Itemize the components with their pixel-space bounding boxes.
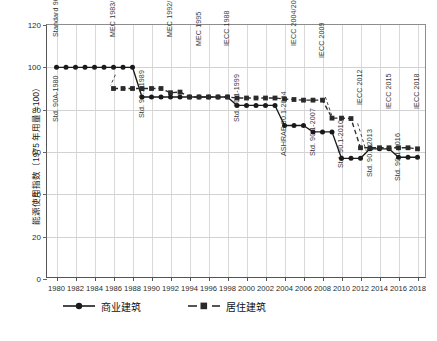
y-tick-label: 120	[28, 21, 41, 30]
data-point	[111, 86, 116, 91]
x-tick-label: 1980	[48, 284, 65, 293]
x-tick-label: 2004	[276, 284, 293, 293]
x-tick-label: 1996	[200, 284, 217, 293]
data-point	[140, 94, 145, 99]
x-tick-label: 2008	[314, 284, 331, 293]
data-point	[54, 65, 59, 70]
legend-item-residential[interactable]: 居住建筑	[187, 299, 266, 314]
data-point	[130, 65, 135, 70]
data-point	[358, 145, 363, 150]
energy-index-chart: 能源使用指数（1975 年用量 =100） 120100806040200 19…	[0, 0, 437, 341]
data-point	[178, 90, 183, 95]
data-point	[292, 123, 297, 128]
data-point	[178, 94, 183, 99]
data-point	[301, 98, 306, 103]
data-point	[349, 116, 354, 121]
data-point	[168, 94, 173, 99]
data-point	[311, 129, 316, 134]
data-point	[235, 103, 240, 108]
data-point	[92, 65, 97, 70]
y-tick-label: 40	[32, 190, 41, 199]
legend-swatch-square	[187, 300, 221, 312]
data-point	[330, 129, 335, 134]
data-point	[406, 145, 411, 150]
data-point	[121, 86, 126, 91]
data-point	[320, 98, 325, 103]
data-point	[282, 97, 287, 102]
data-point	[140, 86, 145, 91]
data-point	[396, 155, 401, 160]
x-tick-label: 2018	[409, 284, 426, 293]
data-point	[187, 95, 192, 100]
legend-label-commercial: 商业建筑	[101, 299, 141, 314]
data-point	[197, 95, 202, 100]
data-point	[415, 155, 420, 160]
x-tick-label: 2006	[295, 284, 312, 293]
data-point	[254, 103, 259, 108]
data-point	[149, 86, 154, 91]
legend-swatch-circle	[62, 300, 96, 312]
data-point	[244, 103, 249, 108]
legend-label-residential: 居住建筑	[226, 299, 266, 314]
data-point	[368, 145, 373, 150]
x-tick-label: 1994	[181, 284, 198, 293]
data-point	[235, 96, 240, 101]
x-tick-label: 1990	[143, 284, 160, 293]
data-point	[73, 65, 78, 70]
series-line-commercial	[57, 67, 418, 158]
legend-item-commercial[interactable]: 商业建筑	[62, 299, 141, 314]
y-tick-label: 80	[32, 105, 41, 114]
data-point	[377, 145, 382, 150]
series-layer	[47, 25, 427, 279]
data-point	[121, 65, 126, 70]
data-point	[263, 96, 268, 101]
data-point	[282, 123, 287, 128]
data-point	[339, 156, 344, 161]
data-point	[111, 65, 116, 70]
data-point	[273, 103, 278, 108]
data-point	[225, 95, 230, 100]
data-point	[311, 98, 316, 103]
plot-area: 120100806040200 198019821984198619881990…	[46, 24, 426, 278]
y-tick-label: 60	[32, 148, 41, 157]
x-tick-label: 2012	[352, 284, 369, 293]
data-point	[102, 65, 107, 70]
x-tick-label: 2014	[371, 284, 388, 293]
data-point	[159, 86, 164, 91]
y-tick-mark	[43, 279, 47, 280]
data-point	[273, 96, 278, 101]
x-tick-label: 1998	[219, 284, 236, 293]
chart-legend: 商业建筑 居住建筑	[46, 296, 426, 316]
data-point	[130, 86, 135, 91]
y-tick-label: 100	[28, 63, 41, 72]
data-point	[168, 90, 173, 95]
data-point	[406, 155, 411, 160]
data-point	[254, 96, 259, 101]
data-point	[216, 95, 221, 100]
x-tick-label: 2002	[257, 284, 274, 293]
x-tick-label: 1986	[105, 284, 122, 293]
data-point	[358, 156, 363, 161]
y-tick-label: 0	[37, 275, 41, 284]
data-point	[244, 96, 249, 101]
y-tick-label: 20	[32, 232, 41, 241]
data-point	[64, 65, 69, 70]
x-tick-label: 2000	[238, 284, 255, 293]
data-point	[387, 145, 392, 150]
data-point	[415, 146, 420, 151]
data-point	[396, 145, 401, 150]
x-tick-label: 2016	[390, 284, 407, 293]
data-point	[349, 156, 354, 161]
x-tick-label: 1992	[162, 284, 179, 293]
annotation-leader-line	[111, 75, 116, 86]
data-point	[149, 94, 154, 99]
data-point	[339, 116, 344, 121]
data-point	[263, 103, 268, 108]
x-tick-label: 1982	[67, 284, 84, 293]
x-tick-label: 2010	[333, 284, 350, 293]
data-point	[301, 123, 306, 128]
data-point	[330, 116, 335, 121]
x-tick-label: 1988	[124, 284, 141, 293]
data-point	[83, 65, 88, 70]
x-tick-label: 1984	[86, 284, 103, 293]
